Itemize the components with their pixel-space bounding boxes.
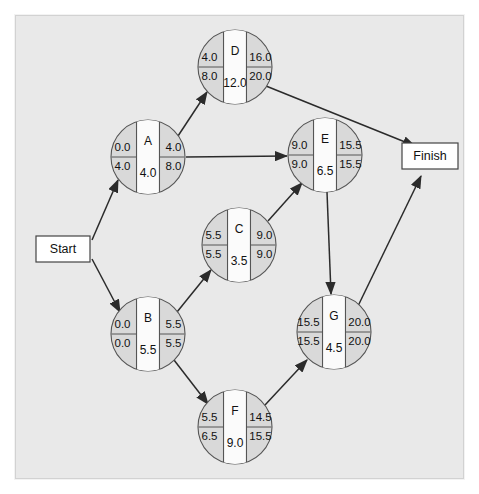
- node-F[interactable]: 5.56.514.515.5F9.0: [198, 388, 272, 466]
- node-E-label: E: [321, 132, 329, 146]
- edge-B-to-F: [174, 360, 208, 404]
- node-B-duration: 5.5: [140, 343, 157, 357]
- node-band-D: [224, 28, 247, 106]
- node-C-duration: 3.5: [231, 254, 248, 268]
- terminal-start[interactable]: Start: [36, 236, 90, 262]
- node-D-early-finish: 16.0: [249, 51, 271, 63]
- node-E-early-finish: 15.5: [339, 139, 361, 151]
- node-A-duration: 4.0: [140, 166, 157, 180]
- node-F-late-finish: 15.5: [249, 430, 271, 442]
- node-band-C: [228, 206, 251, 284]
- node-D-early-start: 4.0: [201, 51, 217, 63]
- node-D-label: D: [231, 44, 240, 58]
- node-G-label: G: [329, 309, 338, 323]
- edge-C-to-E: [268, 183, 302, 221]
- terminal-finish[interactable]: Finish: [402, 143, 458, 169]
- edge-E-to-G: [327, 192, 331, 294]
- node-C[interactable]: 5.55.59.09.0C3.5: [202, 206, 276, 284]
- terminal-label-start: Start: [50, 242, 77, 256]
- node-A-early-start: 0.0: [114, 141, 130, 153]
- node-C-late-start: 5.5: [205, 248, 221, 260]
- diagram-canvas: 4.08.016.020.0D12.00.04.04.08.0A4.09.09.…: [0, 0, 479, 494]
- node-C-early-finish: 9.0: [257, 229, 273, 241]
- edge-start-to-A: [92, 180, 118, 240]
- node-band-A: [137, 118, 160, 196]
- node-G-early-finish: 20.0: [348, 316, 370, 328]
- node-A-late-start: 4.0: [114, 160, 130, 172]
- edge-B-to-C: [177, 270, 211, 312]
- node-G-late-start: 15.5: [297, 335, 319, 347]
- node-B-early-start: 0.0: [114, 318, 130, 330]
- node-band-B: [137, 295, 160, 373]
- node-D-late-finish: 20.0: [249, 70, 271, 82]
- node-C-early-start: 5.5: [205, 229, 221, 241]
- edge-F-to-G: [265, 360, 307, 405]
- node-B-label: B: [144, 311, 152, 325]
- edge-A-to-D: [178, 92, 207, 136]
- network-diagram: 4.08.016.020.0D12.00.04.04.08.0A4.09.09.…: [0, 0, 479, 494]
- node-E-late-finish: 15.5: [339, 158, 361, 170]
- node-F-label: F: [231, 404, 238, 418]
- node-G-duration: 4.5: [326, 341, 343, 355]
- node-band-G: [323, 293, 346, 371]
- node-B[interactable]: 0.00.05.55.5B5.5: [111, 295, 185, 373]
- edge-A-to-E: [186, 156, 287, 157]
- node-F-early-finish: 14.5: [249, 411, 271, 423]
- node-D-duration: 12.0: [223, 76, 247, 90]
- node-B-late-finish: 5.5: [166, 337, 182, 349]
- edge-start-to-B: [92, 259, 120, 312]
- node-A-label: A: [144, 134, 152, 148]
- node-band-E: [314, 116, 337, 194]
- node-B-late-start: 0.0: [114, 337, 130, 349]
- edge-G-to-finish: [358, 176, 421, 306]
- node-F-duration: 9.0: [227, 436, 244, 450]
- node-C-label: C: [235, 222, 244, 236]
- node-B-early-finish: 5.5: [166, 318, 182, 330]
- terminal-label-finish: Finish: [413, 149, 446, 163]
- node-E-early-start: 9.0: [291, 139, 307, 151]
- node-E[interactable]: 9.09.015.515.5E6.5: [288, 116, 362, 194]
- node-F-early-start: 5.5: [201, 411, 217, 423]
- nodes-layer: 4.08.016.020.0D12.00.04.04.08.0A4.09.09.…: [111, 28, 371, 466]
- node-G-late-finish: 20.0: [348, 335, 370, 347]
- node-band-F: [224, 388, 247, 466]
- node-D-late-start: 8.0: [201, 70, 217, 82]
- node-F-late-start: 6.5: [201, 430, 217, 442]
- node-E-duration: 6.5: [317, 164, 334, 178]
- node-G-early-start: 15.5: [297, 316, 319, 328]
- node-A[interactable]: 0.04.04.08.0A4.0: [111, 118, 185, 196]
- node-G[interactable]: 15.515.520.020.0G4.5: [297, 293, 371, 371]
- node-D[interactable]: 4.08.016.020.0D12.0: [198, 28, 272, 106]
- node-C-late-finish: 9.0: [257, 248, 273, 260]
- node-E-late-start: 9.0: [291, 158, 307, 170]
- node-A-early-finish: 4.0: [166, 141, 182, 153]
- node-A-late-finish: 8.0: [166, 160, 182, 172]
